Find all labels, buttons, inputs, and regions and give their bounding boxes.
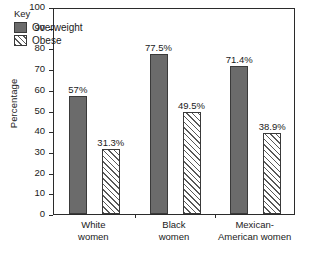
bar-value-label: 71.4% (226, 54, 253, 65)
x-axis-group-label-line: Black (134, 219, 215, 231)
y-axis-tick-label: 70 (34, 63, 45, 74)
bar-value-label: 38.9% (259, 121, 286, 132)
x-axis-group-label: Mexican-American women (214, 219, 295, 243)
bar-chart: Percentage 1009080706050403020100 57%77.… (0, 0, 319, 253)
bar-obese-0: 31.3% (102, 149, 120, 214)
y-axis-title: Percentage (8, 59, 19, 149)
bar-value-label: 31.3% (97, 137, 124, 148)
x-axis-group-label-line: women (134, 231, 215, 243)
y-axis-tick-label: 50 (34, 105, 45, 116)
legend-entry-label: Overweight (32, 22, 83, 33)
legend-entry-overweight: Overweight (14, 22, 83, 33)
y-axis-tick-label: 0 (40, 208, 45, 219)
y-axis-tick-label: 20 (34, 167, 45, 178)
plot-area: 57%77.5%71.4%31.3%49.5%38.9% (53, 8, 295, 215)
x-axis-group-separator (215, 214, 216, 218)
legend-title: Key (14, 8, 83, 19)
y-axis-tick-label: 60 (34, 84, 45, 95)
x-axis-group-label-line: women (53, 231, 134, 243)
bar-value-label: 49.5% (178, 100, 205, 111)
bar-value-label: 77.5% (145, 42, 172, 53)
solid-swatch (14, 22, 27, 33)
y-axis-tick-label: 40 (34, 125, 45, 136)
x-axis-group-label: Whitewomen (53, 219, 134, 243)
bar-overweight-0: 57% (69, 96, 87, 214)
legend: Key OverweightObese (10, 6, 89, 52)
bar-overweight-1: 77.5% (150, 54, 168, 214)
x-axis-group-label-line: Mexican- (214, 219, 295, 231)
y-axis-tick-label: 10 (34, 187, 45, 198)
bar-overweight-2: 71.4% (230, 66, 248, 214)
y-axis-tick-label: 30 (34, 146, 45, 157)
legend-entries: OverweightObese (14, 22, 83, 46)
legend-entry-label: Obese (32, 35, 61, 46)
bar-obese-2: 38.9% (263, 133, 281, 214)
y-axis-tick-mark (49, 215, 53, 216)
x-axis-group-label: Blackwomen (134, 219, 215, 243)
bar-obese-1: 49.5% (183, 112, 201, 214)
legend-entry-obese: Obese (14, 35, 83, 46)
hatched-swatch (14, 35, 27, 46)
bar-value-label: 57% (68, 84, 87, 95)
x-axis-group-label-line: White (53, 219, 134, 231)
x-axis-group-label-line: American women (214, 231, 295, 243)
x-axis-group-separator (135, 214, 136, 218)
